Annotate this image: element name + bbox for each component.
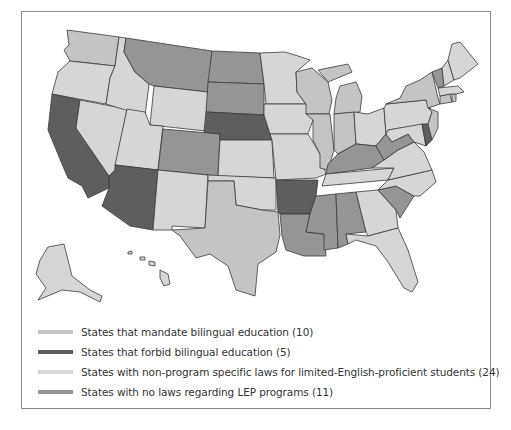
legend-label: States that mandate bilingual education …: [81, 326, 313, 338]
state-RI: [452, 94, 456, 102]
state-HI: [128, 251, 170, 286]
state-AZ: [102, 165, 158, 230]
legend-swatch-no-laws: [38, 390, 73, 394]
state-CO: [158, 129, 220, 176]
state-FL: [346, 228, 418, 292]
legend-label: States that forbid bilingual education (…: [81, 346, 290, 358]
state-NM: [153, 170, 208, 230]
state-WY: [150, 86, 208, 131]
state-SD: [206, 82, 264, 115]
legend-label: States with no laws regarding LEP progra…: [81, 386, 333, 398]
legend-swatch-mandate: [38, 330, 73, 334]
legend-item-no-laws: States with no laws regarding LEP progra…: [38, 382, 500, 402]
state-MA: [438, 86, 464, 96]
state-ND: [208, 51, 264, 84]
state-WA: [64, 30, 119, 66]
state-ME: [448, 42, 478, 80]
legend-item-non-program: States with non-program specific laws fo…: [38, 362, 500, 382]
legend-swatch-non-program: [38, 370, 73, 374]
legend-label: States with non-program specific laws fo…: [81, 366, 500, 378]
state-AK: [36, 244, 102, 302]
legend-swatch-forbid: [38, 350, 73, 354]
legend: States that mandate bilingual education …: [38, 322, 500, 402]
legend-item-mandate: States that mandate bilingual education …: [38, 322, 500, 342]
state-KS: [218, 140, 274, 178]
legend-item-forbid: States that forbid bilingual education (…: [38, 342, 500, 362]
